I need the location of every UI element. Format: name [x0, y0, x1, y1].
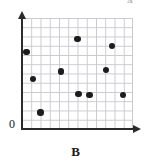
data-point	[86, 92, 92, 98]
x-axis-label: B	[0, 145, 151, 158]
scatter-plot-figure: 0 B A	[0, 0, 151, 166]
y-axis-arrow-icon	[18, 11, 26, 19]
data-point	[37, 109, 43, 115]
data-point	[75, 91, 81, 97]
data-point	[109, 43, 115, 49]
data-point	[58, 68, 64, 74]
x-axis-line	[21, 128, 134, 130]
x-axis-arrow-icon	[133, 125, 141, 133]
y-axis-label: A	[126, 0, 134, 3]
origin-label: 0	[9, 118, 15, 130]
data-point	[120, 92, 126, 98]
y-axis-line	[21, 18, 23, 130]
